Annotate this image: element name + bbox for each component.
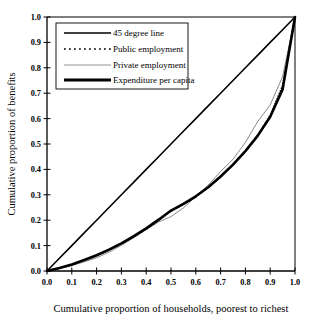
x-tick-label: 0.2	[91, 278, 101, 287]
chart-legend: 45 degree linePublic employmentPrivate e…	[56, 23, 194, 89]
lorenz-curve-figure: 0.00.10.20.30.40.50.60.70.80.91.0 0.00.1…	[0, 0, 309, 324]
y-axis-title: Cumulative proportion of benefits	[6, 72, 17, 215]
y-tick-label: 0.1	[31, 242, 41, 251]
x-tick-label: 0.6	[191, 278, 201, 287]
y-tick-label: 0.7	[31, 89, 41, 98]
x-axis-title: Cumulative proportion of households, poo…	[54, 303, 289, 314]
x-tick-label: 0.4	[141, 278, 151, 287]
y-tick-label: 0.4	[31, 165, 41, 174]
legend-label-1: Public employment	[113, 44, 184, 54]
y-tick-label: 0.9	[31, 38, 41, 47]
x-tick-label: 0.7	[215, 278, 225, 287]
x-tick-label: 0.3	[116, 278, 126, 287]
x-tick-label: 1.0	[290, 278, 300, 287]
legend-label-2: Private employment	[113, 60, 186, 70]
x-tick-label: 0.5	[166, 278, 176, 287]
y-tick-label: 0.5	[31, 140, 41, 149]
x-tick-label: 0.1	[67, 278, 77, 287]
y-tick-label: 0.3	[31, 191, 41, 200]
legend-label-3: Expenditure per capita	[113, 75, 194, 85]
x-tick-label: 0.8	[240, 278, 250, 287]
y-tick-label: 1.0	[31, 13, 41, 22]
x-tick-label: 0.0	[42, 278, 52, 287]
y-tick-label: 0.2	[31, 216, 41, 225]
y-tick-label: 0.6	[31, 115, 41, 124]
chart-canvas: 0.00.10.20.30.40.50.60.70.80.91.0 0.00.1…	[0, 0, 309, 324]
y-tick-label: 0.0	[31, 267, 41, 276]
x-tick-label: 0.9	[265, 278, 275, 287]
y-tick-label: 0.8	[31, 64, 41, 73]
legend-label-0: 45 degree line	[113, 28, 164, 38]
